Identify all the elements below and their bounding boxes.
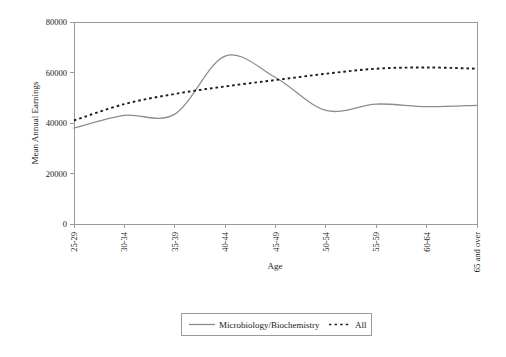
y-tick-label-2: 40000 <box>46 118 67 128</box>
y-tick-label-3: 60000 <box>46 68 67 78</box>
x-tick-label-1: 30-34 <box>119 231 129 252</box>
x-tick-label-6: 55-59 <box>371 232 381 252</box>
x-tick-label-7: 60-64 <box>422 231 432 252</box>
chart-background <box>0 0 506 357</box>
x-axis-title: Age <box>268 261 283 271</box>
x-tick-label-4: 45-49 <box>271 232 281 252</box>
legend-label-all: All <box>355 320 367 330</box>
y-axis-title: Mean Annual Earnings <box>30 81 40 164</box>
x-tick-label-3: 40-44 <box>220 231 230 252</box>
x-tick-label-0: 25-29 <box>69 232 79 252</box>
x-tick-label-8: 65 and over <box>472 232 482 272</box>
chart-legend: Microbiology/Biochemistry All <box>182 314 372 336</box>
chart-container: 020000400006000080000 25-2930-3435-3940-… <box>0 0 506 357</box>
y-tick-label-1: 20000 <box>46 169 67 179</box>
earnings-by-age-line-chart: 020000400006000080000 25-2930-3435-3940-… <box>0 0 506 357</box>
x-tick-label-2: 35-39 <box>170 232 180 252</box>
legend-label-microbiology-biochemistry: Microbiology/Biochemistry <box>219 320 320 330</box>
y-tick-label-4: 80000 <box>46 17 67 27</box>
y-tick-label-0: 0 <box>63 219 67 229</box>
x-tick-label-5: 50-54 <box>321 231 331 252</box>
